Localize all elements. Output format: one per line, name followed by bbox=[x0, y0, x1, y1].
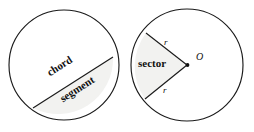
radius-label-top: r bbox=[164, 38, 168, 47]
center-point-label: O bbox=[196, 52, 203, 62]
diagram-canvas bbox=[0, 0, 254, 132]
center-point-dot bbox=[186, 63, 190, 67]
circle-geometry-figure: chord segment sector r r O bbox=[0, 0, 254, 132]
sector-label: sector bbox=[138, 58, 166, 69]
radius-label-bottom: r bbox=[163, 86, 167, 95]
